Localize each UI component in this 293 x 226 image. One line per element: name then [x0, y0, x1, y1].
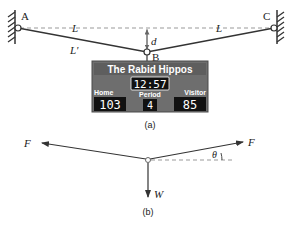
label-f-right: F — [247, 136, 255, 148]
period-label: Period — [139, 91, 161, 98]
visitor-score: 85 — [183, 98, 197, 112]
label-theta: θ — [212, 149, 217, 160]
pivot-b — [144, 49, 150, 55]
part-a: A C B L L L' d The Rabid Hippos 12:57 Ho… — [8, 10, 284, 130]
label-l-right: L — [215, 22, 222, 34]
junction-point — [146, 158, 151, 163]
theta-angle-arc — [221, 153, 222, 160]
part-b: F F θ W (b) — [23, 136, 255, 217]
cable-right — [147, 28, 274, 52]
scoreboard: The Rabid Hippos 12:57 Home 103 Period 4… — [92, 61, 208, 112]
pivot-c — [271, 25, 277, 31]
label-l-prime: L' — [69, 44, 79, 56]
clock-value: 12:57 — [133, 78, 166, 91]
right-wall — [277, 10, 284, 44]
label-w: W — [154, 188, 164, 200]
label-c: C — [263, 10, 270, 22]
force-f-right-arrow — [150, 142, 243, 159]
home-score: 103 — [99, 98, 121, 112]
cable-left — [18, 28, 147, 52]
caption-a: (a) — [145, 120, 156, 130]
force-f-left-arrow — [42, 143, 146, 159]
home-label: Home — [94, 89, 114, 96]
period-value: 4 — [147, 100, 153, 111]
scoreboard-physics-diagram: A C B L L L' d The Rabid Hippos 12:57 Ho… — [0, 0, 293, 226]
team-name: The Rabid Hippos — [108, 64, 193, 75]
pivot-a — [15, 25, 21, 31]
visitor-label: Visitor — [184, 89, 206, 96]
left-wall — [8, 10, 15, 44]
label-d: d — [151, 35, 157, 47]
label-l-left: L — [71, 22, 78, 34]
caption-b: (b) — [143, 207, 154, 217]
label-a: A — [21, 10, 29, 22]
label-f-left: F — [23, 137, 31, 149]
